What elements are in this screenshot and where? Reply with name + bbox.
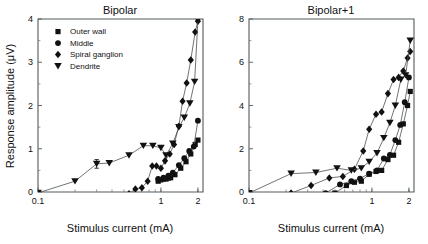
series-group-right <box>245 38 414 197</box>
x-tick-label: 0.1 <box>32 196 45 206</box>
x-tick-label: 1 <box>158 196 163 206</box>
legend-marker-triangle-down <box>54 63 62 69</box>
marker-triangle-down <box>191 79 199 85</box>
y-axis-right: 02468 <box>239 14 253 197</box>
x-axis-left: 0.112 <box>32 188 201 207</box>
y-tick-label: 6 <box>239 57 244 67</box>
marker-diamond <box>126 190 132 198</box>
marker-circle <box>176 162 182 168</box>
marker-diamond <box>288 189 294 197</box>
marker-circle <box>191 144 197 150</box>
panel-title-left: Bipolar <box>103 4 138 16</box>
y-tick-label: 3 <box>28 57 33 67</box>
marker-diamond <box>326 174 332 182</box>
y-tick-label: 2 <box>239 144 244 154</box>
y-tick-label: 4 <box>239 101 244 111</box>
marker-diamond <box>390 76 396 84</box>
marker-circle <box>337 182 343 188</box>
marker-triangle-down <box>194 17 202 23</box>
x-tick-label: 2 <box>406 196 411 206</box>
marker-circle <box>357 176 363 182</box>
marker-diamond <box>340 173 346 181</box>
marker-diamond <box>179 97 185 105</box>
marker-circle <box>381 156 387 162</box>
marker-triangle-down <box>186 100 194 106</box>
marker-square <box>195 138 200 143</box>
marker-square <box>332 190 337 195</box>
marker-triangle-down <box>71 178 79 184</box>
legend-label: Outer wall <box>70 27 106 36</box>
marker-triangle-down <box>125 152 133 158</box>
marker-circle <box>323 190 329 196</box>
marker-diamond <box>379 108 385 116</box>
marker-circle <box>155 176 161 182</box>
series-line <box>249 41 410 193</box>
marker-circle <box>170 170 176 176</box>
marker-circle <box>348 178 354 184</box>
legend-left: Outer wallMiddleSpiral ganglionDendrite <box>54 27 123 71</box>
panel-bipolar: Bipolar 01234 0.112 Outer wallMiddleSpir… <box>28 4 203 206</box>
y-axis-left: 01234 <box>28 14 42 197</box>
marker-triangle-down <box>181 115 189 121</box>
marker-circle <box>366 171 372 177</box>
figure-container: Bipolar 01234 0.112 Outer wallMiddleSpir… <box>0 0 428 244</box>
marker-diamond <box>184 79 190 87</box>
marker-circle <box>402 99 408 105</box>
x-axis-title-left: Stimulus current (mA) <box>67 222 173 234</box>
marker-diamond <box>188 56 194 64</box>
y-tick-label: 2 <box>28 101 33 111</box>
marker-diamond <box>373 110 379 118</box>
marker-triangle-down <box>175 124 183 130</box>
marker-circle <box>195 118 201 124</box>
legend-label: Middle <box>70 39 94 48</box>
marker-triangle-down <box>157 145 165 151</box>
marker-triangle-down <box>406 38 414 44</box>
legend-marker-diamond <box>55 51 61 59</box>
legend-marker-square <box>55 29 60 34</box>
x-tick-label: 2 <box>195 196 200 206</box>
series-line <box>38 20 198 193</box>
marker-triangle-down <box>386 120 394 126</box>
y-axis-title: Response amplitude (μV) <box>4 44 16 168</box>
marker-circle <box>392 137 398 143</box>
marker-square <box>344 183 349 188</box>
series-spiral-ganglion <box>288 48 413 197</box>
marker-circle <box>397 122 403 128</box>
marker-diamond <box>308 182 314 190</box>
legend-label: Dendrite <box>70 62 101 71</box>
y-tick-label: 8 <box>239 14 244 24</box>
series-dendrite <box>245 38 414 197</box>
chart-svg: Bipolar 01234 0.112 Outer wallMiddleSpir… <box>0 0 428 244</box>
series-spiral-ganglion <box>126 17 201 197</box>
panel-bipolar-plus-1: Bipolar+1 02468 0.112 <box>239 4 414 206</box>
y-tick-label: 1 <box>28 144 33 154</box>
marker-circle <box>186 148 192 154</box>
marker-circle <box>181 155 187 161</box>
marker-triangle-down <box>380 135 388 141</box>
series-outer-wall <box>332 89 413 196</box>
marker-circle <box>374 167 380 173</box>
x-tick-label: 1 <box>369 196 374 206</box>
legend-marker-circle <box>55 40 61 46</box>
plot-frame-right <box>249 19 414 192</box>
x-axis-right: 0.112 <box>243 188 412 207</box>
y-tick-label: 4 <box>28 14 33 24</box>
marker-circle <box>387 152 393 158</box>
marker-diamond <box>360 147 366 155</box>
panel-title-right: Bipolar+1 <box>308 4 355 16</box>
marker-diamond <box>385 90 391 98</box>
marker-square <box>408 89 413 94</box>
legend-label: Spiral ganglion <box>70 50 123 59</box>
x-tick-label: 0.1 <box>243 196 256 206</box>
marker-diamond <box>366 126 372 134</box>
marker-triangle-down <box>392 102 400 108</box>
x-axis-title-right: Stimulus current (mA) <box>278 222 384 234</box>
